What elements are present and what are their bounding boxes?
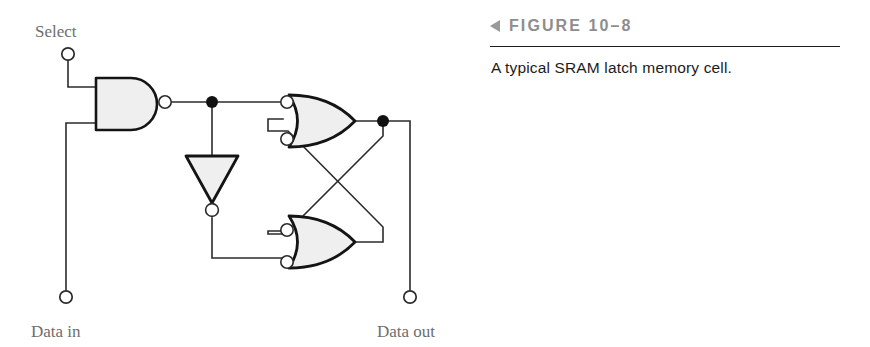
sram-latch-circuit: Select Data in Data out bbox=[0, 0, 470, 347]
figure-divider bbox=[490, 46, 840, 47]
wire-top-gate-to-dataout bbox=[355, 121, 410, 290]
figure-number-label: FIGURE 10–8 bbox=[509, 17, 633, 35]
top-gate-input-bubble-b-icon bbox=[281, 133, 293, 145]
nand-gate-body bbox=[96, 78, 157, 130]
inverter-gate-body bbox=[186, 156, 238, 203]
top-gate-body bbox=[289, 95, 355, 147]
circuit-diagram-panel: Select Data in Data out bbox=[0, 0, 470, 347]
negative-and-gate-bottom bbox=[281, 216, 355, 268]
data-in-label: Data in bbox=[31, 322, 81, 341]
data-in-terminal[interactable] bbox=[60, 291, 72, 303]
nand-output-bubble-icon bbox=[159, 96, 171, 108]
inverter-output-bubble-icon bbox=[206, 204, 219, 217]
figure-caption-text: A typical SRAM latch memory cell. bbox=[491, 58, 836, 79]
latch-output-node bbox=[377, 115, 389, 127]
wire-inverter-to-bottom-gate bbox=[212, 218, 283, 258]
bottom-gate-input-bubble-b-icon bbox=[281, 256, 293, 268]
wire-select-to-nand bbox=[68, 60, 96, 87]
left-triangle-icon bbox=[490, 20, 500, 32]
bottom-gate-body bbox=[289, 216, 355, 268]
figure-heading: FIGURE 10–8 bbox=[490, 17, 633, 35]
select-label: Select bbox=[35, 22, 77, 41]
bottom-gate-input-bubble-a-icon bbox=[281, 224, 293, 236]
data-out-terminal[interactable] bbox=[404, 291, 416, 303]
inverter-gate bbox=[186, 156, 238, 216]
data-out-label: Data out bbox=[377, 322, 435, 341]
negative-and-gate-top bbox=[281, 95, 355, 147]
wire-datain-to-nand bbox=[66, 123, 96, 290]
figure-caption-panel: FIGURE 10–8 A typical SRAM latch memory … bbox=[490, 0, 850, 347]
top-gate-input-bubble-a-icon bbox=[281, 96, 293, 108]
nand-gate bbox=[96, 78, 171, 130]
nand-output-node bbox=[206, 96, 218, 108]
select-terminal[interactable] bbox=[62, 48, 74, 60]
